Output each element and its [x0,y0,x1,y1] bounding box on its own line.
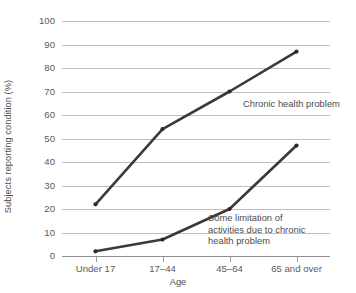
x-axis-tick-label: 65 and over [271,264,322,275]
y-axis-tick-label: 80 [17,63,55,73]
y-axis-tick-labels: 0102030405060708090100 [17,0,55,293]
y-axis-tick-label: 60 [17,110,55,120]
x-axis-tick [230,257,231,262]
y-axis-tick-label: 90 [17,40,55,50]
x-axis-tick-label: 17–44 [149,264,176,275]
y-axis-tick-label: 10 [17,228,55,238]
series-line-0 [96,52,297,205]
series-label-chronic-health-problem: Chronic health problem [243,98,340,110]
data-point [93,202,97,206]
x-axis-tick-label: 45–64 [216,264,243,275]
data-point [227,89,231,93]
data-point [160,237,164,241]
y-axis-tick-label: 0 [17,251,55,261]
data-point [294,49,298,53]
y-axis-tick-label: 100 [17,16,55,26]
y-axis-tick-label: 20 [17,204,55,214]
y-axis-tick-label: 40 [17,157,55,167]
x-axis-tick [297,257,298,262]
y-axis-tick-label: 50 [17,134,55,144]
x-axis-tick-label: Under 17 [76,264,115,275]
x-axis-tick [96,257,97,262]
x-axis-title: Age [0,277,356,287]
line-chart: Subjects reporting condition (%) 0102030… [0,0,356,293]
x-axis-line [62,256,330,257]
y-axis-tick-label: 30 [17,181,55,191]
x-axis-tick [163,257,164,262]
y-axis-tick-label: 70 [17,87,55,97]
series-label-some-limitation: Some limitation of activities due to chr… [208,212,305,247]
data-point [294,143,298,147]
data-point [227,207,231,211]
y-axis-title: Subjects reporting condition (%) [0,0,16,293]
data-point [160,127,164,131]
data-point [93,249,97,253]
